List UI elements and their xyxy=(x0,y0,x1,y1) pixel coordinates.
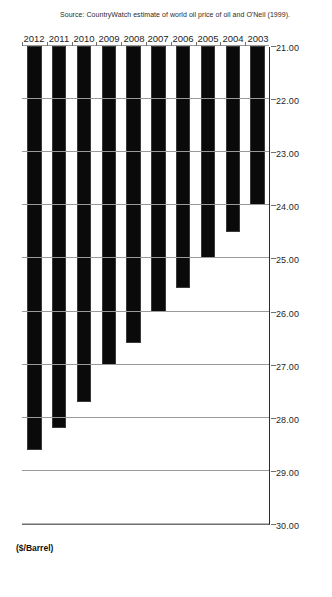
bar xyxy=(201,46,215,258)
value-tick-label: 27.00 xyxy=(276,362,299,372)
category-tick-label: 2012 xyxy=(24,33,45,44)
value-tick-label: 30.00 xyxy=(276,521,299,531)
value-tick-label: 24.00 xyxy=(276,202,299,212)
category-tick-label: 2009 xyxy=(98,33,119,44)
category-tick-label: 2008 xyxy=(123,33,144,44)
source-note: Source: CountryWatch estimate of world o… xyxy=(60,11,290,18)
category-tick-label: 2011 xyxy=(49,33,69,44)
gridline xyxy=(22,257,269,258)
category-tick-mark xyxy=(96,42,97,46)
value-tick-label: 29.00 xyxy=(276,468,299,478)
plot-area xyxy=(22,47,270,525)
value-tick-label: 28.00 xyxy=(276,415,299,425)
bar xyxy=(102,46,116,365)
gridline xyxy=(22,151,269,152)
bar xyxy=(250,46,264,205)
plot-wrapper: 30.0029.0028.0027.0026.0025.0024.0023.00… xyxy=(22,47,270,525)
bar xyxy=(27,46,41,450)
value-tick-label: 26.00 xyxy=(276,309,299,319)
oil-price-bar-chart: ($/Barrel) Year Source: CountryWatch est… xyxy=(0,0,332,597)
value-tick-label: 23.00 xyxy=(276,149,299,159)
category-tick-label: 2007 xyxy=(148,33,169,44)
gridline xyxy=(22,204,269,205)
bar xyxy=(151,46,165,312)
gridline xyxy=(22,98,269,99)
gridline xyxy=(22,470,269,471)
gridline xyxy=(22,311,269,312)
category-tick-label: 2003 xyxy=(247,33,268,44)
category-tick-label: 2010 xyxy=(73,33,94,44)
bar xyxy=(176,46,190,288)
category-tick-label: 2004 xyxy=(222,33,243,44)
gridline xyxy=(22,523,269,524)
value-tick-label: 25.00 xyxy=(276,255,299,265)
bar xyxy=(77,46,91,402)
bar xyxy=(126,46,140,343)
value-axis-title: ($/Barrel) xyxy=(16,543,53,553)
value-tick-label: 21.00 xyxy=(276,43,299,53)
bar-series xyxy=(22,47,269,524)
bar xyxy=(52,46,66,428)
category-tick-label: 2005 xyxy=(197,33,218,44)
gridline xyxy=(22,364,269,365)
category-tick-mark xyxy=(47,42,48,46)
category-tick-label: 2006 xyxy=(173,33,194,44)
category-tick-mark xyxy=(245,42,246,46)
value-tick-label: 22.00 xyxy=(276,96,299,106)
category-tick-mark xyxy=(220,42,221,46)
gridline xyxy=(22,417,269,418)
category-tick-mark xyxy=(121,42,122,46)
